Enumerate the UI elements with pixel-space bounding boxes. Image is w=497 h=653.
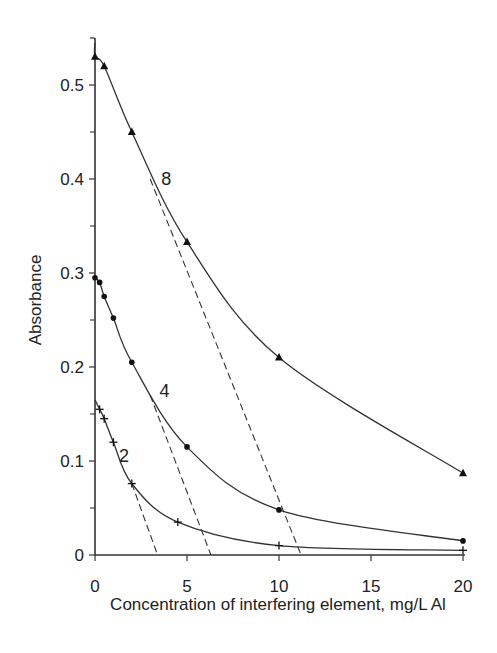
data-curves [94, 43, 463, 551]
axis-ticks: 00.10.20.30.40.505101520 [60, 76, 472, 596]
x-tick-label: 0 [90, 577, 99, 596]
dot-marker [129, 360, 135, 366]
curve-label-2: 2 [119, 446, 129, 466]
plus-marker [96, 405, 104, 413]
triangle-marker [459, 469, 467, 477]
tangent-line-8 [150, 179, 301, 555]
y-tick-label: 0.5 [60, 76, 84, 95]
dot-marker [97, 280, 103, 286]
curve-4 [95, 276, 463, 541]
curve-label-8: 8 [161, 169, 171, 189]
dot-marker [184, 444, 190, 450]
y-tick-label: 0.2 [60, 358, 84, 377]
plus-marker [459, 546, 467, 554]
triangle-marker [100, 62, 108, 69]
x-tick-label: 10 [270, 577, 289, 596]
tangent-lines [132, 179, 301, 555]
tangent-line-2 [132, 484, 158, 555]
x-axis-title: Concentration of interfering element, mg… [110, 595, 446, 614]
x-tick-label: 15 [362, 577, 381, 596]
plus-marker [109, 438, 117, 446]
absorbance-chart: 00.10.20.30.40.505101520 842 Concentrati… [0, 0, 497, 653]
y-tick-label: 0.1 [60, 452, 84, 471]
y-tick-label: 0 [75, 546, 84, 565]
y-tick-label: 0.4 [60, 170, 84, 189]
data-markers [91, 52, 467, 554]
dot-marker [92, 275, 98, 281]
curve-2 [95, 400, 463, 550]
dot-marker [111, 315, 117, 321]
curve-8 [94, 43, 463, 474]
x-tick-label: 20 [454, 577, 473, 596]
triangle-marker [275, 353, 283, 361]
axes [90, 38, 465, 555]
plus-marker [275, 542, 283, 550]
plus-marker [100, 415, 108, 423]
curve-label-4: 4 [159, 381, 169, 401]
x-tick-label: 5 [182, 577, 191, 596]
triangle-marker [128, 128, 136, 136]
dot-marker [101, 294, 107, 300]
triangle-marker [91, 52, 99, 60]
dot-marker [276, 507, 282, 513]
y-axis-title: Absorbance [26, 255, 45, 346]
plus-marker [174, 518, 182, 526]
dot-marker [460, 538, 466, 544]
curve-labels: 842 [119, 169, 171, 466]
y-tick-label: 0.3 [60, 264, 84, 283]
